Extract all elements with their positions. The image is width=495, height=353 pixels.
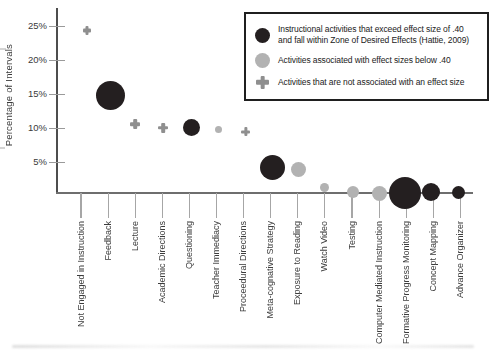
legend: Instructional activities that exceed eff…	[244, 12, 489, 101]
circle-glyph	[255, 28, 270, 43]
y-tick-label-20: 20%	[18, 54, 47, 66]
x-label-lecture: Lecture	[130, 221, 141, 251]
x-label-proceedural-directions: Proceedural Directions	[238, 221, 249, 312]
marker-not-engaged-in-instruction	[83, 26, 92, 35]
x-label-not-engaged-in-instruction: Not Engaged in Instruction	[76, 221, 87, 327]
plus-glyph	[256, 76, 269, 89]
x-tick-academic-directions	[162, 193, 163, 218]
marker-academic-directions	[158, 123, 168, 133]
legend-item-2: Activities associated with effect sizes …	[253, 53, 483, 68]
x-tick-teacher-immediacy	[216, 193, 217, 218]
scan-artifact-left-2	[0, 147, 5, 149]
x-tick-lecture	[135, 193, 136, 218]
x-label-testing: Testing	[347, 221, 358, 250]
x-label-meta-cognative-strategy: Meta-cognative Strategy	[265, 221, 276, 319]
marker-feedback	[96, 81, 125, 110]
legend-item-3: Activities that are not associated with …	[253, 76, 483, 89]
marker-watch-video	[320, 183, 329, 192]
circle-glyph	[255, 53, 270, 68]
y-tick-25	[49, 26, 65, 28]
x-label-questioning: Questioning	[184, 221, 195, 269]
marker-meta-cognative-strategy	[260, 155, 285, 180]
x-label-formative-progress-monitoring: Formative Progress Monitoring	[401, 221, 412, 344]
x-label-exposure-to-reading: Exposure to Reading	[292, 221, 303, 305]
marker-teacher-immediacy	[215, 126, 222, 133]
x-tick-exposure-to-reading	[297, 193, 298, 218]
gray-circle-icon	[253, 53, 272, 68]
scan-artifact-bottom	[12, 345, 474, 348]
marker-advance-organizer	[452, 186, 465, 199]
y-tick-15	[49, 94, 65, 96]
x-label-computer-mediated-instruction: Computer Mediated Instruction	[374, 221, 385, 344]
legend-item-1: Instructional activities that exceed eff…	[253, 24, 483, 45]
marker-lecture	[130, 119, 140, 129]
y-tick-label-25: 25%	[18, 20, 47, 32]
x-label-concept-mapping: Concept Mapping	[428, 221, 439, 292]
x-tick-not-engaged-in-instruction	[80, 193, 81, 218]
x-label-advance-organizer: Advance Organizer	[455, 221, 466, 298]
y-tick-label-15: 15%	[18, 88, 47, 100]
marker-questioning	[183, 119, 200, 136]
marker-concept-mapping	[422, 183, 440, 201]
y-tick-5	[49, 162, 65, 164]
marker-exposure-to-reading	[291, 162, 306, 177]
x-label-teacher-immediacy: Teacher Immediacy	[211, 221, 222, 299]
effect-size-scatter-chart: Percentage of Intervals 5%10%15%20%25% N…	[0, 0, 495, 353]
x-tick-proceedural-directions	[243, 193, 244, 218]
x-label-feedback: Feedback	[103, 221, 114, 261]
legend-item-label: Instructional activities that exceed eff…	[278, 24, 469, 45]
marker-testing	[347, 186, 359, 198]
y-tick-10	[49, 128, 65, 130]
x-label-watch-video: Watch Video	[319, 221, 330, 272]
black-circle-icon	[253, 28, 272, 43]
marker-computer-mediated-instruction	[372, 186, 387, 201]
y-tick-label-5: 5%	[18, 156, 47, 168]
x-tick-feedback	[108, 193, 109, 218]
y-tick-20	[49, 60, 65, 62]
x-label-academic-directions: Academic Directions	[157, 221, 168, 303]
x-tick-watch-video	[324, 193, 325, 218]
scan-artifact-left-1	[0, 48, 6, 50]
x-tick-questioning	[189, 193, 190, 218]
plus-icon	[253, 76, 272, 89]
legend-item-label: Activities that are not associated with …	[278, 77, 464, 88]
marker-proceedural-directions	[241, 127, 250, 136]
y-tick-label-10: 10%	[18, 122, 47, 134]
y-axis-line	[56, 8, 58, 194]
y-axis-title: Percentage of Intervals	[3, 44, 15, 146]
marker-formative-progress-monitoring	[389, 177, 421, 209]
x-tick-meta-cognative-strategy	[270, 193, 271, 218]
legend-item-label: Activities associated with effect sizes …	[278, 55, 451, 66]
